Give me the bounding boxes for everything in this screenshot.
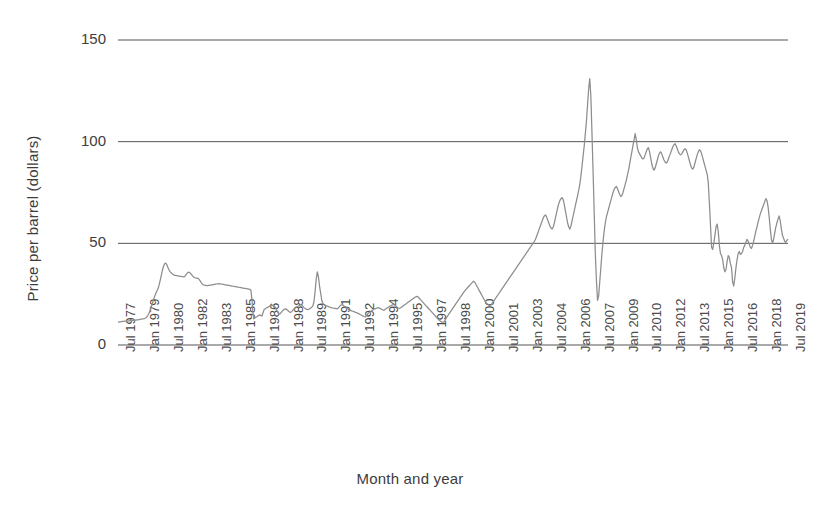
plot-area [0, 0, 820, 508]
data-line-crude-oil-price [118, 79, 788, 323]
oil-price-line-chart: Price per barrel (dollars) Month and yea… [0, 0, 820, 508]
